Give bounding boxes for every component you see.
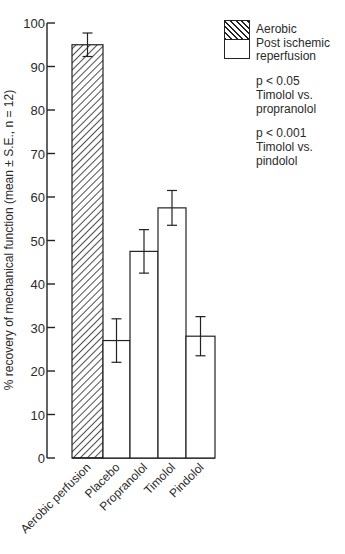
legend-swatch-reperfusion xyxy=(224,39,250,59)
annotation-text: pindolol xyxy=(256,154,313,168)
y-tick-label: 50 xyxy=(31,234,45,249)
annotation-timolol-pindolol: p < 0.001 Timolol vs. pindolol xyxy=(256,126,313,168)
y-tick-label: 70 xyxy=(31,147,45,162)
annotation-p-value: p < 0.001 xyxy=(256,126,313,140)
legend-label-aerobic: Aerobic xyxy=(256,23,297,36)
y-tick-label: 30 xyxy=(31,321,45,336)
y-axis-label: % recovery of mechanical function (mean … xyxy=(2,90,16,390)
bars xyxy=(72,33,215,458)
legend-label-reperfusion: Post ischemic reperfusion xyxy=(256,37,330,63)
annotation-p-value: p < 0.05 xyxy=(256,74,316,88)
annotation-text: propranolol xyxy=(256,102,316,116)
bar-aerobic-perfusion xyxy=(72,45,103,458)
x-axis-labels: Aerobic perfusionPlaceboPropranololTimol… xyxy=(18,460,207,536)
annotation-timolol-propranolol: p < 0.05 Timolol vs. propranolol xyxy=(256,74,316,116)
y-tick-label: 60 xyxy=(31,190,45,205)
legend-swatch-aerobic xyxy=(224,20,250,40)
y-tick-label: 0 xyxy=(38,451,45,466)
y-axis: 0102030405060708090100 xyxy=(23,16,55,466)
legend-label-reperfusion-line2: reperfusion xyxy=(256,50,330,63)
y-tick-label: 100 xyxy=(23,16,45,31)
y-tick-label: 80 xyxy=(31,103,45,118)
bar-propranolol xyxy=(130,251,158,458)
y-tick-label: 90 xyxy=(31,60,45,75)
annotation-text: Timolol vs. xyxy=(256,88,316,102)
y-tick-label: 40 xyxy=(31,277,45,292)
annotation-text: Timolol vs. xyxy=(256,140,313,154)
x-tick-label: Aerobic perfusion xyxy=(18,460,94,536)
bar-timolol xyxy=(158,208,186,458)
y-tick-label: 10 xyxy=(31,408,45,423)
y-tick-label: 20 xyxy=(31,364,45,379)
